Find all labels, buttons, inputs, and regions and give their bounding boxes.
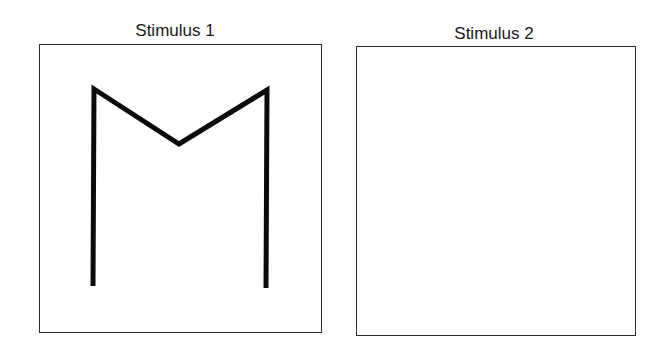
stimulus-2-label: Stimulus 2 — [454, 24, 533, 44]
stimulus-2-box — [356, 46, 636, 336]
stimulus-1-label: Stimulus 1 — [135, 21, 214, 41]
stimulus-1-box — [39, 44, 322, 333]
